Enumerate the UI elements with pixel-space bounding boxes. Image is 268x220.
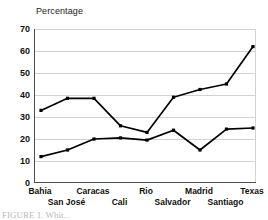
data-point-marker: [225, 128, 228, 131]
x-tick-label: Cali: [112, 197, 128, 207]
data-point-marker: [66, 148, 69, 151]
data-point-marker: [198, 148, 201, 151]
x-tick-label: Caracas: [76, 186, 109, 196]
y-tick-label: 30: [0, 112, 30, 122]
plot-area: [34, 29, 256, 183]
data-point-marker: [119, 136, 122, 139]
data-point-marker: [39, 109, 42, 112]
axis-title: Percentage: [36, 6, 83, 16]
data-point-marker: [92, 137, 95, 140]
y-tick-label: 50: [0, 68, 30, 78]
data-point-marker: [145, 131, 148, 134]
y-tick-label: 60: [0, 46, 30, 56]
data-point-marker: [145, 139, 148, 142]
data-point-marker: [66, 97, 69, 100]
y-tick-label: 10: [0, 156, 30, 166]
series-1: [39, 45, 254, 134]
x-tick-label: Santiago: [208, 197, 244, 207]
data-point-marker: [251, 45, 254, 48]
x-tick-label: Salvador: [155, 197, 191, 207]
caption-text: FIGURE 1. Whit...: [2, 212, 70, 220]
caption-strip: FIGURE 1. Whit...: [0, 212, 268, 220]
data-point-marker: [225, 82, 228, 85]
data-point-marker: [172, 96, 175, 99]
y-tick-label: 40: [0, 90, 30, 100]
x-axis-tick-labels: BahiaSan JoséCaracasCaliRioSalvadorMadri…: [0, 186, 268, 212]
y-axis-tick-labels: 70 60 50 40 30 20 10 0: [0, 29, 30, 183]
x-tick-label: Madrid: [185, 186, 213, 196]
data-point-marker: [119, 124, 122, 127]
data-point-marker: [251, 126, 254, 129]
data-series-layer: [35, 29, 257, 183]
x-tick-label: San José: [48, 197, 85, 207]
data-point-marker: [198, 88, 201, 91]
chart-figure: Percentage 70 60 50 40 30 20 10 0 BahiaS…: [0, 0, 268, 220]
y-tick-label: 70: [0, 24, 30, 34]
series-line: [41, 47, 253, 133]
x-tick-label: Texas: [240, 186, 263, 196]
data-point-marker: [92, 97, 95, 100]
x-tick-label: Rio: [139, 186, 153, 196]
x-tick-label: Bahia: [28, 186, 51, 196]
data-point-marker: [39, 155, 42, 158]
y-tick-label: 20: [0, 134, 30, 144]
data-point-marker: [172, 129, 175, 132]
